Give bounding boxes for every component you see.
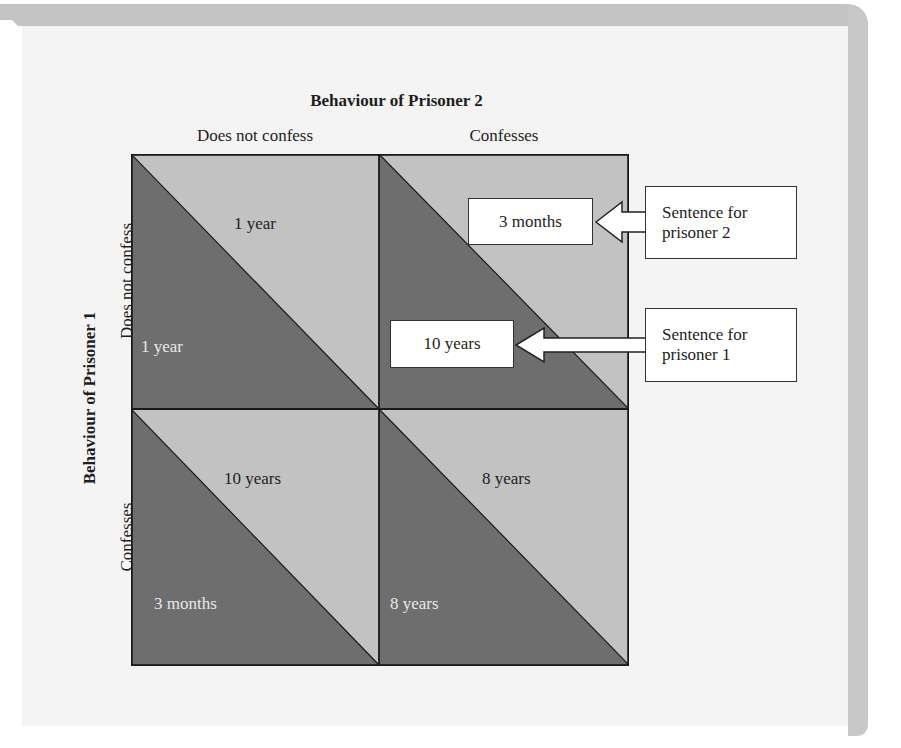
arrow-left-icon (514, 325, 652, 365)
cell-dnc-c-prisoner1-text: 10 years (423, 334, 480, 354)
callout-sentence-prisoner-1: Sentence for prisoner 1 (645, 308, 797, 382)
arrow-left-icon (594, 194, 652, 250)
cell-c-dnc-prisoner2-sentence: 10 years (224, 469, 281, 489)
page-frame-top (0, 4, 868, 26)
page-frame-right (848, 4, 868, 736)
cell-dnc-c-prisoner1-sentence: 10 years (390, 320, 514, 368)
callout-sentence-prisoner-2: Sentence for prisoner 2 (645, 186, 797, 259)
cell-dnc-dnc-prisoner2-sentence: 1 year (234, 214, 276, 234)
callout-prisoner2-line2: prisoner 2 (662, 223, 747, 243)
row-axis-title: Behaviour of Prisoner 1 (80, 198, 100, 598)
cell-c-dnc-prisoner1-sentence: 3 months (154, 594, 217, 614)
column-header-confesses: Confesses (379, 126, 629, 146)
cell-dnc-c-prisoner2-sentence: 3 months (468, 198, 593, 245)
cell-dnc-c-prisoner2-text: 3 months (499, 212, 562, 232)
cell-c-c-prisoner1-sentence: 8 years (390, 594, 439, 614)
callout-prisoner1-line1: Sentence for (662, 325, 747, 345)
column-header-does-not-confess: Does not confess (131, 126, 379, 146)
cell-dnc-dnc-prisoner1-sentence: 1 year (141, 337, 183, 357)
cell-c-c-prisoner2-sentence: 8 years (482, 469, 531, 489)
callout-prisoner1-line2: prisoner 1 (662, 345, 747, 365)
callout-prisoner2-line1: Sentence for (662, 203, 747, 223)
column-axis-title: Behaviour of Prisoner 2 (0, 91, 901, 111)
